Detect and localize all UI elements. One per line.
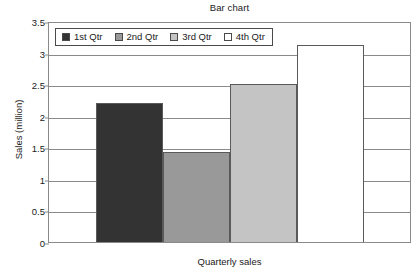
x-axis-label: Quarterly sales xyxy=(48,256,411,268)
legend-entry-1st-qtr: 1st Qtr xyxy=(62,32,103,42)
legend-label: 1st Qtr xyxy=(74,32,103,42)
y-tick-label: 2.5 xyxy=(32,81,45,91)
legend-label: 3rd Qtr xyxy=(182,32,212,42)
bar-3rd-qtr xyxy=(230,84,297,242)
y-tick-mark xyxy=(45,23,49,24)
y-tick-mark xyxy=(45,149,49,150)
bar-2nd-qtr xyxy=(163,152,230,242)
y-tick-label: 3.5 xyxy=(32,18,45,28)
y-tick-mark xyxy=(45,180,49,181)
legend-swatch-icon xyxy=(115,33,123,41)
legend-entry-3rd-qtr: 3rd Qtr xyxy=(170,32,212,42)
y-tick-label: 1.5 xyxy=(32,144,45,154)
legend-swatch-icon xyxy=(170,33,178,41)
chart-legend: 1st Qtr2nd Qtr3rd Qtr4th Qtr xyxy=(55,28,273,46)
legend-swatch-icon xyxy=(224,33,232,41)
y-tick-label: 0 xyxy=(40,239,45,249)
legend-label: 4th Qtr xyxy=(236,32,265,42)
legend-entry-4th-qtr: 4th Qtr xyxy=(224,32,265,42)
y-axis-label: Sales (million) xyxy=(13,60,24,200)
y-tick-mark xyxy=(45,212,49,213)
bar-1st-qtr xyxy=(96,103,163,242)
chart-title: Bar chart xyxy=(48,2,411,14)
legend-entry-2nd-qtr: 2nd Qtr xyxy=(115,32,159,42)
bar-4th-qtr xyxy=(297,45,364,242)
y-tick-label: 0.5 xyxy=(32,207,45,217)
y-tick-mark xyxy=(45,54,49,55)
y-tick-label: 3 xyxy=(40,50,45,60)
y-tick-mark xyxy=(45,117,49,118)
y-tick-label: 1 xyxy=(40,176,45,186)
legend-label: 2nd Qtr xyxy=(127,32,159,42)
y-tick-mark xyxy=(45,244,49,245)
y-tick-label: 2 xyxy=(40,113,45,123)
legend-swatch-icon xyxy=(62,33,70,41)
y-tick-mark xyxy=(45,86,49,87)
bar-chart-figure: Bar chart Sales (million) 1st Qtr2nd Qtr… xyxy=(0,0,420,273)
plot-area: 1st Qtr2nd Qtr3rd Qtr4th Qtr 3.532.521.5… xyxy=(48,22,411,243)
